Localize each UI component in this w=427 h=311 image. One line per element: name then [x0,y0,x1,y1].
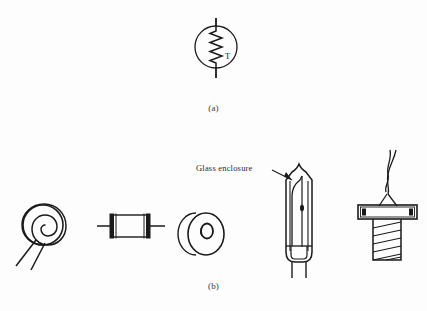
panel-a-caption: (a) [0,103,427,113]
thermistor-figure: T [0,0,427,311]
symbol-t-label: T [225,51,231,61]
rod-body [112,215,148,237]
glass-probe-thermistor [272,164,312,278]
washer-thermistor [178,213,224,255]
bolt-mounted-thermistor [358,150,417,260]
disc-lead-right [31,243,45,270]
symbol-zigzag-element [210,27,222,67]
bolt-head-inner [361,207,415,217]
probe-internal-wire [292,176,302,246]
bolt-lead-twist-b [387,150,396,194]
figure-page: T [0,0,427,311]
bolt-lead-branch-right [388,194,397,206]
bolt-threads [373,222,401,260]
rod-endcap-left [110,214,115,239]
probe-inner-seal [291,246,307,259]
thermistor-symbol-group: T [195,18,237,78]
washer-outer-edge [188,213,224,255]
glass-enclosure-annotation: Glass enclosure [196,163,253,173]
disc-lead-left [16,240,36,266]
disc-spiral-coil [22,204,66,245]
disc-spiral-thermistor [16,204,66,270]
rod-endcap-right [146,214,151,239]
bolt-terminal-right [409,209,413,216]
panel-b-caption: (b) [0,281,427,291]
washer-hole [201,224,213,239]
bolt-terminal-left [362,209,366,216]
rod-thermistor [97,214,165,239]
symbol-circle [195,26,237,68]
bolt-lead-branch-left [379,194,387,206]
